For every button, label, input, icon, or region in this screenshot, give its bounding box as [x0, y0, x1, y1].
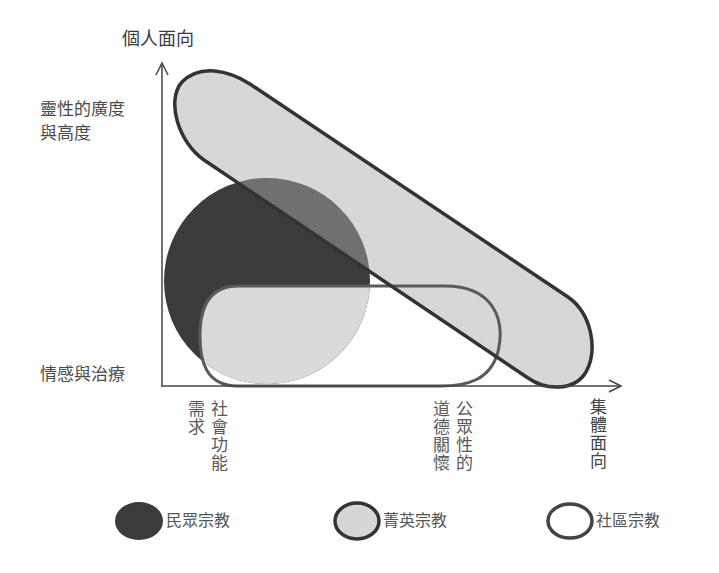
x-tick-public-moral-col1: 公眾性的 — [453, 400, 473, 472]
legend-elite-label: 菁英宗教 — [383, 510, 447, 532]
legend-folk-swatch — [115, 502, 163, 540]
x-axis-title: 集體面向 — [587, 398, 607, 470]
y-axis — [156, 63, 168, 387]
legend-community-label: 社區宗教 — [596, 510, 660, 532]
x-tick-social-function-col2: 需求 — [185, 400, 205, 436]
legend-community-swatch — [548, 504, 592, 538]
y-tick-emotional-healing: 情感與治療 — [40, 363, 125, 385]
legend-elite-swatch — [335, 503, 379, 539]
x-tick-public-moral-col2: 道德關懷 — [430, 400, 450, 472]
diagram-canvas — [0, 0, 719, 573]
x-tick-social-function-col1: 社會功能 — [208, 400, 228, 472]
y-axis-title: 個人面向 — [122, 28, 194, 50]
y-tick-spiritual-line1: 靈性的廣度 — [40, 98, 125, 120]
y-tick-spiritual-line2: 與高度 — [40, 122, 91, 144]
legend-folk-label: 民眾宗教 — [166, 510, 230, 532]
